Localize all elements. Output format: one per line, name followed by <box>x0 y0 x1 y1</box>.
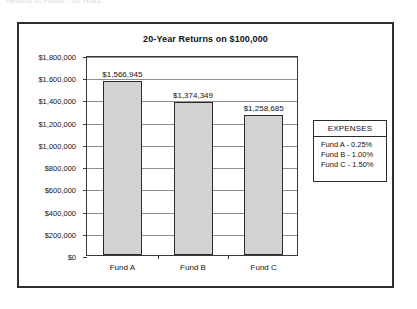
y-tick-label: $400,000 <box>45 208 76 217</box>
bar <box>174 102 213 255</box>
y-tick-mark <box>83 257 87 258</box>
bar <box>244 115 283 255</box>
x-tick-mark <box>228 255 229 259</box>
x-tick-mark <box>158 255 159 259</box>
legend-box: EXPENSES Fund A - 0.25%Fund B - 1.00%Fun… <box>313 120 387 182</box>
legend-title: EXPENSES <box>314 124 386 136</box>
y-tick-mark <box>83 57 87 58</box>
y-tick-mark <box>83 213 87 214</box>
y-tick-mark <box>83 124 87 125</box>
bar-value-label: $1,566,945 <box>102 70 142 79</box>
chart-frame: 20-Year Returns on $100,000 $0$200,000$4… <box>17 22 394 288</box>
y-tick-label: $1,400,000 <box>38 97 76 106</box>
plot-area: $0$200,000$400,000$600,000$800,000$1,000… <box>86 56 298 256</box>
y-tick-label: $200,000 <box>45 230 76 239</box>
y-tick-mark <box>83 79 87 80</box>
y-tick-mark <box>83 101 87 102</box>
y-tick-mark <box>83 190 87 191</box>
legend-row: Fund A - 0.25% <box>314 140 386 150</box>
y-tick-mark <box>83 146 87 147</box>
legend-rows: Fund A - 0.25%Fund B - 1.00%Fund C - 1.5… <box>314 140 386 170</box>
y-tick-mark <box>83 168 87 169</box>
y-tick-mark <box>83 235 87 236</box>
bar-value-label: $1,374,349 <box>173 91 213 100</box>
legend-divider <box>314 136 386 137</box>
bar <box>103 81 142 255</box>
legend-row: Fund C - 1.50% <box>314 160 386 170</box>
y-tick-label: $1,200,000 <box>38 119 76 128</box>
legend-row: Fund B - 1.00% <box>314 150 386 160</box>
x-tick-label: Fund B <box>180 263 206 272</box>
chart-title: 20-Year Returns on $100,000 <box>19 34 392 44</box>
y-tick-label: $0 <box>68 253 76 262</box>
y-tick-label: $800,000 <box>45 164 76 173</box>
x-tick-label: Fund C <box>251 263 277 272</box>
y-tick-label: $1,800,000 <box>38 53 76 62</box>
bar-value-label: $1,258,685 <box>244 104 284 113</box>
cut-off-header-text: Returns of Funds - 20 Years <box>6 0 101 4</box>
y-tick-label: $1,000,000 <box>38 141 76 150</box>
y-tick-label: $600,000 <box>45 186 76 195</box>
y-tick-label: $1,600,000 <box>38 75 76 84</box>
x-tick-label: Fund A <box>110 263 135 272</box>
gridline <box>87 57 297 58</box>
